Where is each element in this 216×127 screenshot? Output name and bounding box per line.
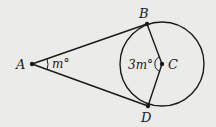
label-a: A — [15, 57, 25, 72]
point-c — [160, 62, 164, 66]
angle-label-c: 3m° — [128, 58, 153, 72]
angle-arc-c — [155, 57, 159, 71]
label-b: B — [138, 6, 149, 21]
label-d: D — [140, 110, 152, 125]
point-b — [145, 22, 149, 26]
geometry-diagram: A B C D m° 3m° — [0, 0, 216, 127]
angle-label-a: m° — [52, 57, 69, 71]
point-a — [30, 62, 34, 66]
label-c: C — [168, 57, 178, 72]
angle-arc-a — [47, 59, 48, 70]
point-d — [146, 104, 150, 108]
